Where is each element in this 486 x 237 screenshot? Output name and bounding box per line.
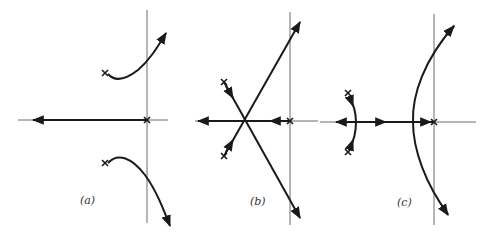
panel-b-label: (b) <box>250 195 266 208</box>
panel-c-parabola <box>413 26 454 214</box>
panel-a-label: (a) <box>80 194 95 207</box>
panel-b-pole-upper <box>221 79 227 85</box>
root-locus-figure <box>0 0 486 237</box>
panel-b-upper-asymptote <box>224 22 300 156</box>
panel-c-pole-upper <box>345 90 351 96</box>
panel-a-lower-branch <box>108 157 170 226</box>
panel-a-pole-lower <box>102 160 108 166</box>
panel-b-pole-lower <box>221 153 227 159</box>
panel-c-label: (c) <box>397 196 412 209</box>
panel-b <box>195 12 318 225</box>
panel-c-pole-lower <box>345 149 351 155</box>
panel-c <box>320 14 476 225</box>
panel-a-pole-upper <box>102 70 108 76</box>
panel-a-upper-branch <box>108 33 166 79</box>
